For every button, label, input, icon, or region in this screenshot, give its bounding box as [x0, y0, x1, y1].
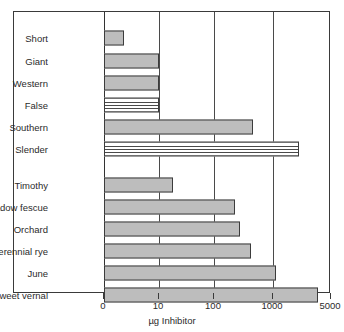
- row-label-slender: Slender: [15, 144, 48, 155]
- table-row: Perennial rye: [104, 242, 329, 260]
- bar-southern: [104, 120, 253, 135]
- tick-label-5000: 5000: [319, 300, 340, 311]
- row-label-meadow-fescue: Meadow fescue: [0, 202, 48, 213]
- x-axis-title: µg Inhibitor: [0, 315, 344, 326]
- tick-label-10: 10: [153, 300, 164, 311]
- row-label-timothy: Timothy: [15, 180, 48, 191]
- row-label-southern: Southern: [9, 122, 48, 133]
- table-row: Slender: [104, 140, 329, 158]
- row-label-orchard: Orchard: [14, 224, 48, 235]
- row-label-perennial-rye: Perennial rye: [0, 246, 48, 257]
- table-row: Giant: [104, 52, 329, 70]
- tick-label-100: 100: [205, 300, 221, 311]
- tick-mark-5000: [330, 293, 331, 299]
- row-label-giant: Giant: [25, 56, 48, 67]
- table-row: Southern: [104, 118, 329, 136]
- bar-perennial-rye: [104, 244, 251, 259]
- row-label-june: June: [27, 268, 48, 279]
- bar-meadow-fescue: [104, 200, 235, 215]
- bar-chart-figure: a.RAGWEED b.GRASS Short Giant Western Fa…: [0, 0, 344, 332]
- bar-false: [104, 98, 159, 113]
- tick-mark-10: [158, 293, 159, 299]
- table-row: Short: [104, 29, 329, 47]
- row-label-false: False: [25, 100, 48, 111]
- tick-mark-100: [213, 293, 214, 299]
- table-row: June: [104, 264, 329, 282]
- plot-area: Short Giant Western False Southern Slend…: [13, 11, 330, 293]
- table-row: False: [104, 96, 329, 114]
- bar-timothy: [104, 178, 173, 193]
- tick-label-0: 0: [100, 300, 105, 311]
- bar-june: [104, 266, 276, 281]
- row-label-sweet-vernal: Sweet vernal: [0, 290, 48, 301]
- tick-mark-0: [103, 293, 104, 299]
- table-row: Timothy: [104, 176, 329, 194]
- table-row: Western: [104, 74, 329, 92]
- tick-label-1000: 1000: [261, 300, 282, 311]
- table-row: Orchard: [104, 220, 329, 238]
- bar-slender: [104, 142, 299, 157]
- table-row: Meadow fescue: [104, 198, 329, 216]
- row-label-short: Short: [25, 33, 48, 44]
- bar-short: [104, 31, 124, 46]
- tick-mark-1000: [272, 293, 273, 299]
- bar-orchard: [104, 222, 240, 237]
- row-label-western: Western: [13, 78, 48, 89]
- bar-western: [104, 76, 159, 91]
- bar-giant: [104, 54, 159, 69]
